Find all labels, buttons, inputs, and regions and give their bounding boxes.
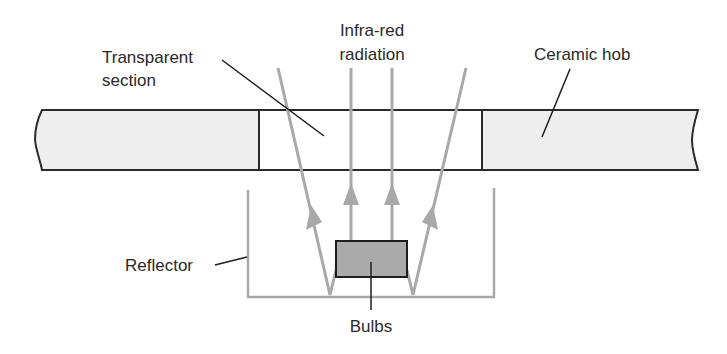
arrowheads	[306, 183, 438, 230]
ray-right	[407, 68, 466, 295]
label-transparent-line2: section	[102, 71, 156, 90]
label-transparent-line1: Transparent	[102, 48, 193, 67]
label-ceramic-hob: Ceramic hob	[534, 45, 630, 64]
label-bulbs: Bulbs	[350, 317, 393, 336]
label-infra-red-line2: radiation	[339, 45, 404, 64]
ceramic-hob-left	[35, 110, 259, 170]
ray-left	[278, 68, 336, 295]
ceramic-hob-right	[482, 110, 698, 170]
leader-reflector	[215, 257, 247, 265]
arrow-icon	[343, 183, 359, 205]
label-infra-red-line1: Infra-red	[340, 21, 404, 40]
hob-diagram: Transparent section Infra-red radiation …	[0, 0, 727, 354]
arrow-icon	[384, 183, 400, 205]
label-reflector: Reflector	[125, 256, 193, 275]
